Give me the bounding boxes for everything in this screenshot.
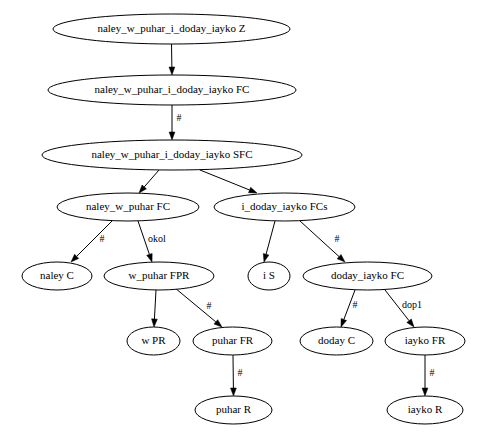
graph-edge <box>263 221 275 262</box>
arrow-head-icon <box>152 319 158 327</box>
edge-line <box>144 170 159 187</box>
graph-edge <box>422 355 428 396</box>
arrow-head-icon <box>231 388 237 396</box>
node-label: iayko R <box>408 403 443 415</box>
graph-canvas: naley_w_puhar_i_doday_iayko Znaley_w_puh… <box>0 0 481 441</box>
arrow-head-icon <box>422 388 428 396</box>
graph-edge <box>169 105 175 140</box>
node-label: naley_w_puhar FC <box>86 200 170 212</box>
arrow-head-icon <box>248 187 257 193</box>
edge-label: # <box>100 233 105 244</box>
graph-node[interactable]: w_puhar FPR <box>104 262 214 290</box>
graph-edge <box>139 170 159 193</box>
node-label: iayko FR <box>405 334 446 346</box>
node-label: naley_w_puhar_i_doday_iayko FC <box>95 83 250 95</box>
edge-line <box>300 221 339 257</box>
graph-node[interactable]: naley_w_puhar_i_doday_iayko Z <box>53 14 290 44</box>
node-label: i S <box>263 269 275 281</box>
edge-label: # <box>353 299 358 310</box>
graph-edge <box>169 44 175 75</box>
graph-edge <box>200 170 257 193</box>
arrow-head-icon <box>341 318 347 327</box>
node-label: w_puhar FPR <box>129 269 190 281</box>
graph-node[interactable]: puhar R <box>195 396 272 424</box>
graph-edge <box>71 221 112 262</box>
node-label: puhar FR <box>212 334 254 346</box>
arrow-head-icon <box>169 67 175 75</box>
edge-line <box>266 221 275 254</box>
graph-edge <box>175 288 222 327</box>
graph-edge <box>231 355 237 396</box>
edge-label: # <box>335 233 340 244</box>
edge-line <box>200 170 250 190</box>
edge-label: # <box>430 367 435 378</box>
graph-node[interactable]: naley_w_puhar_i_doday_iayko FC <box>48 75 296 105</box>
graph-node[interactable]: i_doday_iayko FCs <box>214 193 355 221</box>
node-label: naley_w_puhar_i_doday_iayko Z <box>97 22 245 34</box>
nodes-layer: naley_w_puhar_i_doday_iayko Znaley_w_puh… <box>22 14 465 424</box>
graph-node[interactable]: w PR <box>127 327 180 355</box>
graph-node[interactable]: naley C <box>22 262 92 290</box>
graph-node[interactable]: naley_w_puhar_i_doday_iayko SFC <box>42 140 302 170</box>
edge-line <box>154 290 156 319</box>
edge-label: # <box>238 367 243 378</box>
node-label: naley C <box>40 269 74 281</box>
graph-svg: naley_w_puhar_i_doday_iayko Znaley_w_puh… <box>0 0 481 441</box>
arrow-head-icon <box>407 319 414 327</box>
arrow-head-icon <box>263 254 269 262</box>
graph-node[interactable]: i S <box>248 262 290 290</box>
arrow-head-icon <box>169 132 175 140</box>
graph-node[interactable]: doday C <box>300 327 373 355</box>
edge-label: # <box>207 300 212 311</box>
node-label: naley_w_puhar_i_doday_iayko SFC <box>91 148 252 160</box>
graph-node[interactable]: iayko R <box>387 396 463 424</box>
edge-label: dop1 <box>402 299 422 310</box>
graph-node[interactable]: iayko FR <box>385 327 465 355</box>
node-label: doday_iayko FC <box>331 269 404 281</box>
graph-node[interactable]: naley_w_puhar FC <box>57 193 199 221</box>
arrow-head-icon <box>147 253 152 262</box>
graph-node[interactable]: doday_iayko FC <box>303 262 432 290</box>
graph-edge <box>152 290 158 327</box>
edge-label: # <box>177 112 182 123</box>
node-label: doday C <box>318 334 355 346</box>
node-label: w PR <box>141 334 166 346</box>
graph-node[interactable]: puhar FR <box>193 327 272 355</box>
node-label: puhar R <box>216 403 252 415</box>
edge-line <box>77 221 112 256</box>
edge-label: okol <box>148 233 166 244</box>
node-label: i_doday_iayko FCs <box>242 200 328 212</box>
